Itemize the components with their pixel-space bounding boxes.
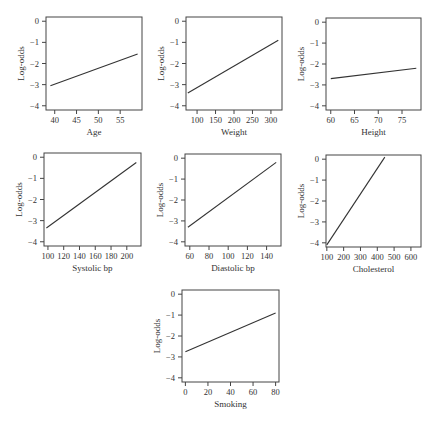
x-tick-label: 600 — [405, 252, 418, 262]
y-tick-label: −4 — [170, 101, 180, 111]
y-tick-label: −2 — [310, 196, 319, 206]
chart-panel-height: 0−1−2−3−460657075HeightLog-odds — [296, 17, 421, 137]
x-tick-label: 60 — [186, 251, 195, 261]
chart-panel-cholesterol: 0−1−2−3−4100200300400500600CholesterolLo… — [296, 154, 421, 274]
plot-frame — [326, 18, 421, 110]
y-tick-label: −2 — [166, 331, 175, 341]
y-tick-label: −3 — [28, 216, 37, 226]
x-tick-label: 70 — [374, 115, 383, 125]
y-tick-label: −4 — [28, 237, 38, 247]
y-tick-label: −1 — [30, 37, 39, 47]
x-axis-label: Weight — [221, 127, 247, 137]
x-tick-label: 300 — [265, 115, 278, 125]
x-tick-label: 40 — [226, 387, 235, 397]
chart-panel-systolic-bp: 0−1−2−3−4100120140160180200Systolic bpLo… — [14, 152, 141, 273]
x-tick-label: 160 — [89, 251, 102, 261]
x-tick-label: 300 — [354, 252, 367, 262]
x-tick-label: 180 — [105, 251, 118, 261]
y-tick-label: −1 — [310, 38, 319, 48]
y-tick-label: 0 — [175, 16, 179, 26]
y-tick-label: −2 — [169, 195, 178, 205]
y-tick-label: 0 — [174, 153, 178, 163]
y-axis-label: Log-odds — [296, 46, 306, 81]
x-tick-label: 100 — [191, 115, 204, 125]
x-axis-label: Diastolic bp — [211, 263, 255, 273]
x-tick-label: 140 — [73, 251, 86, 261]
plot-frame — [186, 17, 282, 110]
y-tick-label: 0 — [315, 154, 319, 164]
x-tick-label: 200 — [228, 115, 241, 125]
x-axis-label: Height — [361, 127, 386, 137]
x-tick-label: 45 — [72, 115, 81, 125]
x-tick-label: 50 — [94, 115, 103, 125]
x-tick-label: 60 — [249, 387, 258, 397]
y-tick-label: −4 — [310, 238, 320, 248]
y-tick-label: 0 — [171, 289, 175, 299]
x-axis-label: Cholesterol — [353, 264, 395, 274]
y-tick-label: −2 — [170, 59, 179, 69]
y-tick-label: −3 — [30, 80, 39, 90]
y-axis-label: Log-odds — [296, 183, 306, 218]
plot-frame — [185, 154, 281, 246]
y-axis-label: Log-odds — [156, 46, 166, 81]
y-axis-label: Log-odds — [14, 182, 24, 217]
log-odds-line — [185, 313, 275, 352]
x-tick-label: 100 — [42, 251, 55, 261]
x-tick-label: 500 — [388, 252, 401, 262]
x-axis-label: Systolic bp — [72, 263, 113, 273]
log-odds-line — [188, 40, 278, 93]
x-tick-label: 75 — [398, 115, 407, 125]
chart-panel-diastolic-bp: 0−1−2−3−46080100120140Diastolic bpLog-od… — [155, 153, 281, 273]
x-tick-label: 120 — [57, 251, 70, 261]
plot-frame — [44, 153, 141, 246]
y-tick-label: 0 — [33, 152, 37, 162]
y-tick-label: −4 — [310, 101, 320, 111]
y-tick-label: −4 — [30, 101, 40, 111]
x-tick-label: 100 — [320, 252, 333, 262]
y-tick-label: −2 — [28, 195, 37, 205]
x-tick-label: 250 — [246, 115, 259, 125]
chart-panel-age: 0−1−2−3−440455055AgeLog-odds — [16, 16, 142, 137]
x-tick-label: 65 — [350, 115, 359, 125]
plot-frame — [46, 17, 142, 110]
log-odds-line — [188, 162, 276, 227]
x-tick-label: 200 — [337, 252, 350, 262]
plot-frame — [326, 155, 421, 247]
x-tick-label: 150 — [209, 115, 222, 125]
y-tick-label: 0 — [35, 16, 39, 26]
x-tick-label: 120 — [241, 251, 254, 261]
y-tick-label: −2 — [310, 59, 319, 69]
log-odds-line — [331, 68, 417, 78]
y-tick-label: −1 — [310, 175, 319, 185]
x-axis-label: Age — [87, 127, 102, 137]
y-tick-label: −4 — [169, 237, 179, 247]
y-tick-label: −1 — [169, 174, 178, 184]
log-odds-line — [50, 54, 137, 86]
log-odds-line — [327, 157, 385, 245]
y-tick-label: −3 — [310, 80, 319, 90]
chart-panel-weight: 0−1−2−3−4100150200250300WeightLog-odds — [156, 16, 282, 137]
x-tick-label: 200 — [120, 251, 133, 261]
x-tick-label: 60 — [327, 115, 336, 125]
y-tick-label: −3 — [169, 216, 178, 226]
x-tick-label: 80 — [205, 251, 214, 261]
y-axis-label: Log-odds — [152, 318, 162, 353]
y-tick-label: −3 — [170, 80, 179, 90]
x-tick-label: 0 — [183, 387, 187, 397]
y-tick-label: −1 — [166, 310, 175, 320]
log-odds-line — [46, 163, 136, 229]
x-tick-label: 40 — [50, 115, 59, 125]
y-tick-label: −2 — [30, 59, 39, 69]
x-axis-label: Smoking — [214, 399, 247, 409]
plot-frame — [182, 290, 279, 382]
y-tick-label: 0 — [315, 17, 319, 27]
y-tick-label: −4 — [166, 373, 176, 383]
y-tick-label: −1 — [28, 173, 37, 183]
y-tick-label: −3 — [166, 352, 175, 362]
x-tick-label: 100 — [222, 251, 235, 261]
y-axis-label: Log-odds — [155, 182, 165, 217]
x-tick-label: 80 — [271, 387, 280, 397]
y-axis-label: Log-odds — [16, 46, 26, 81]
y-tick-label: −3 — [310, 217, 319, 227]
x-tick-label: 55 — [116, 115, 125, 125]
